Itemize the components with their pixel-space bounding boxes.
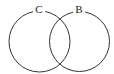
set-b-circle <box>50 12 110 72</box>
venn-diagram: C B <box>0 0 114 74</box>
set-c-label: C <box>35 3 42 15</box>
set-c-circle <box>9 11 70 72</box>
set-b-label: B <box>75 3 82 15</box>
